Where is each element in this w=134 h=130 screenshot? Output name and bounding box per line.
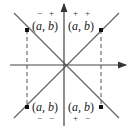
sign-a-q2: − <box>37 9 42 18</box>
point-label-q2: (a, b) <box>32 20 58 32</box>
point-q4 <box>99 105 103 109</box>
sign-b-q1: + <box>85 9 90 18</box>
sign-a-q4: + <box>73 114 78 123</box>
sign-b-q4: − <box>85 114 90 123</box>
sign-a-q3: − <box>37 114 42 123</box>
quadrant-diagram: − + (a, b) + + (a, b) (a, b) − − (a, b) … <box>0 0 134 130</box>
sign-b-q2: + <box>49 9 54 18</box>
point-q2 <box>25 28 29 32</box>
point-label-q1: (a, b) <box>68 20 94 32</box>
point-q3 <box>25 105 29 109</box>
point-label-q3: (a, b) <box>32 101 58 113</box>
point-label-q4: (a, b) <box>68 101 94 113</box>
sign-b-q3: − <box>49 114 54 123</box>
sign-a-q1: + <box>73 9 78 18</box>
point-q1 <box>99 28 103 32</box>
axes-canvas <box>0 0 134 130</box>
